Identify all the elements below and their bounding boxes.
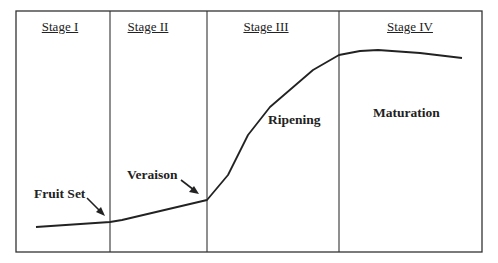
fruit-set-arrow-icon	[87, 198, 105, 216]
growth-curve-diagram	[0, 0, 498, 263]
maturation-label: Maturation	[373, 105, 440, 121]
stage-4-label: Stage IV	[387, 19, 433, 35]
diagram-frame	[16, 11, 482, 252]
veraison-arrow-icon	[181, 180, 199, 194]
ripening-label: Ripening	[268, 112, 321, 128]
stage-2-label: Stage II	[128, 19, 169, 35]
berry-growth-curve	[36, 50, 462, 227]
fruit-set-label: Fruit Set	[34, 186, 85, 202]
stage-3-label: Stage III	[243, 19, 288, 35]
veraison-label: Veraison	[127, 167, 178, 183]
stage-1-label: Stage I	[42, 19, 78, 35]
